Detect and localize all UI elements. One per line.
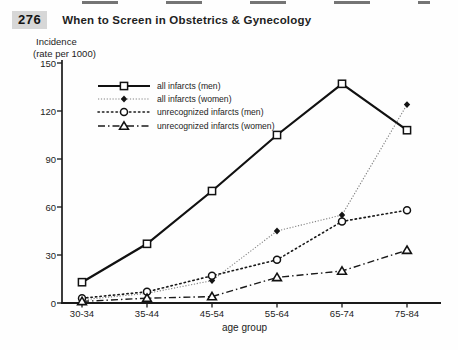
data-point-s3 <box>338 267 347 274</box>
data-point-s3 <box>143 294 152 301</box>
x-tick-label: 65-74 <box>330 308 354 319</box>
y-axis-label-line1: Incidence <box>36 36 77 47</box>
legend-label: unrecognized infarcts (women) <box>157 121 275 131</box>
y-tick-label: 120 <box>40 106 56 117</box>
data-point-s1 <box>274 228 280 235</box>
legend-marker <box>120 122 129 129</box>
y-tick-label: 0 <box>51 298 56 309</box>
data-point-s3 <box>208 292 217 299</box>
data-point-s3 <box>403 246 412 253</box>
legend-marker <box>120 82 127 89</box>
data-point-s0 <box>143 240 150 247</box>
data-point-s0 <box>338 80 345 87</box>
data-point-s0 <box>273 131 280 138</box>
data-point-s2 <box>339 218 346 225</box>
legend-label: all infarcts (women) <box>157 94 232 104</box>
data-point-s2 <box>404 207 411 214</box>
data-point-s0 <box>78 279 85 286</box>
data-point-s1 <box>404 101 410 108</box>
y-tick-label: 150 <box>40 58 56 69</box>
x-tick-label: 45-54 <box>200 308 224 319</box>
legend-label: unrecognized infarcts (men) <box>157 107 264 117</box>
data-point-s0 <box>208 187 215 194</box>
incidence-line-chart: Incidence(rate per 1000)030609012015030-… <box>0 0 458 350</box>
y-tick-label: 30 <box>45 250 56 261</box>
x-tick-label: 35-44 <box>135 308 159 319</box>
series-line-1 <box>82 105 407 300</box>
x-tick-label: 55-64 <box>265 308 289 319</box>
data-point-s0 <box>403 127 410 134</box>
data-point-s2 <box>209 272 216 279</box>
legend-marker <box>121 109 128 116</box>
y-tick-label: 90 <box>45 154 56 165</box>
data-point-s3 <box>273 273 282 280</box>
y-tick-label: 60 <box>45 202 56 213</box>
data-point-s2 <box>274 256 281 263</box>
legend-marker <box>121 96 127 103</box>
x-tick-label: 75-84 <box>395 308 419 319</box>
legend-label: all infarcts (men) <box>157 81 221 91</box>
x-tick-label: 30-34 <box>70 308 94 319</box>
x-axis-label: age group <box>222 322 267 333</box>
book-page: 276 When to Screen in Obstetrics & Gynec… <box>0 0 458 350</box>
